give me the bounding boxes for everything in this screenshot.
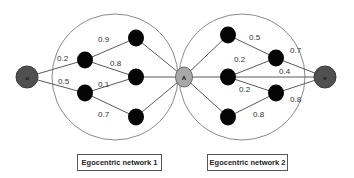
node-r1 <box>220 27 236 44</box>
network-2-edges <box>184 35 325 117</box>
edge-l1-l3 <box>85 38 136 60</box>
weight-l1-l4: 0.8 <box>110 59 122 68</box>
node-r4 <box>268 50 284 67</box>
weight-r2-v: 0.4 <box>279 67 291 76</box>
weight-l1-l3: 0.9 <box>98 35 110 44</box>
weight-r1-r4: 0.5 <box>249 33 261 42</box>
weight-r5-v: 0.8 <box>290 95 302 104</box>
weight-r4-v: 0.7 <box>290 46 302 55</box>
node-l4 <box>128 69 144 86</box>
weight-r2-r5: 0.2 <box>239 85 251 94</box>
node-r3 <box>220 109 236 126</box>
egocentric-network-2-caption: Egocentric network 2 <box>207 154 288 171</box>
weight-u-l2: 0.5 <box>58 77 70 86</box>
node-l2 <box>77 85 93 102</box>
weight-u-l1: 0.2 <box>57 54 69 63</box>
node-l5 <box>128 109 144 126</box>
node-l3 <box>128 30 144 47</box>
weight-r2-r4: 0.2 <box>234 55 246 64</box>
node-r2 <box>220 69 236 86</box>
weight-l2-l4: 0.1 <box>98 80 110 89</box>
node-a-label: A <box>182 75 187 81</box>
network-1-edges <box>27 38 184 117</box>
edge-l2-l5 <box>85 93 136 117</box>
network-nodes: u A v <box>16 27 336 126</box>
egocentric-network-1-caption: Egocentric network 1 <box>77 154 162 171</box>
node-u-label: u <box>25 75 29 81</box>
node-r5 <box>268 85 284 102</box>
network-diagram: 0.2 0.5 0.9 0.8 0.1 0.7 0.5 0.2 0.2 0.4 … <box>0 0 354 178</box>
weight-l2-l5: 0.7 <box>98 110 110 119</box>
node-l1 <box>77 52 93 69</box>
weight-r3-r5: 0.8 <box>253 110 265 119</box>
